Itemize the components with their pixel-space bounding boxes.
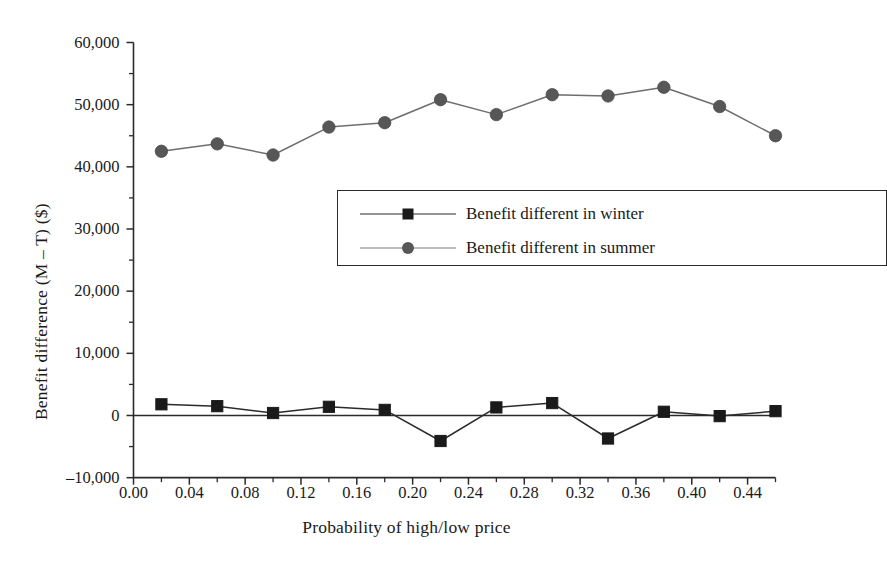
chart-legend: Benefit different in winterBenefit diffe… <box>337 190 887 266</box>
square-marker <box>403 209 414 220</box>
legend-item[interactable]: Benefit different in winter <box>360 204 644 224</box>
data-point-marker <box>714 411 725 422</box>
data-point-marker <box>769 130 781 142</box>
data-point-marker <box>323 121 335 133</box>
series-line-circle <box>161 87 775 155</box>
legend-line-summer <box>360 240 456 256</box>
series-line-square <box>161 403 775 441</box>
data-point-marker <box>212 401 223 412</box>
data-point-marker <box>491 402 502 413</box>
data-point-marker <box>379 116 391 128</box>
legend-item-label: Benefit different in summer <box>466 238 655 258</box>
data-point-marker <box>546 89 558 101</box>
data-point-marker <box>156 399 167 410</box>
legend-item[interactable]: Benefit different in summer <box>360 238 655 258</box>
data-point-marker <box>490 108 502 120</box>
circle-marker <box>402 242 414 254</box>
data-point-marker <box>713 100 725 112</box>
data-point-marker <box>770 406 781 417</box>
data-point-marker <box>434 93 446 105</box>
data-point-marker <box>602 90 614 102</box>
data-point-marker <box>323 401 334 412</box>
data-point-marker <box>211 138 223 150</box>
legend-line-winter <box>360 206 456 222</box>
data-point-marker <box>435 435 446 446</box>
data-point-marker <box>267 149 279 161</box>
data-point-marker <box>155 145 167 157</box>
data-point-marker <box>658 406 669 417</box>
legend-item-label: Benefit different in winter <box>466 204 644 224</box>
data-point-marker <box>602 433 613 444</box>
data-point-marker <box>267 407 278 418</box>
data-point-marker <box>658 81 670 93</box>
data-point-marker <box>547 397 558 408</box>
data-point-marker <box>379 404 390 415</box>
